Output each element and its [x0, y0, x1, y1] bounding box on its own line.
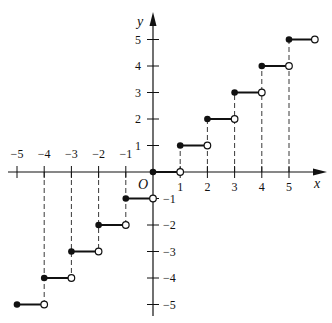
closed-dot-icon	[231, 89, 238, 96]
x-tick-label: 5	[286, 180, 292, 194]
x-tick-label: 2	[204, 180, 210, 194]
open-dot-icon	[312, 36, 319, 43]
open-dot-icon	[150, 195, 157, 202]
closed-dot-icon	[14, 301, 21, 308]
y-axis-arrow-icon	[150, 12, 157, 26]
origin-label: O	[138, 177, 148, 192]
x-tick-label: 4	[259, 180, 265, 194]
open-dot-icon	[286, 63, 293, 70]
y-axis-label: y	[135, 14, 144, 29]
open-dot-icon	[204, 142, 211, 149]
y-tick-label: −4	[163, 271, 176, 285]
y-tick-label: 2	[135, 112, 141, 126]
closed-dot-icon	[41, 275, 48, 282]
y-tick-label: −1	[163, 192, 176, 206]
x-tick-label: 1	[177, 180, 183, 194]
y-tick-label: 3	[135, 86, 141, 100]
open-dot-icon	[41, 301, 48, 308]
closed-dot-icon	[204, 116, 211, 123]
open-dot-icon	[231, 116, 238, 123]
step-function-chart: −5−4−3−2−11234554321−1−2−3−4−5 x y O	[0, 0, 332, 323]
y-tick-label: −5	[163, 298, 176, 312]
open-dot-icon	[177, 169, 184, 176]
x-tick-label: −4	[38, 147, 51, 161]
closed-dot-icon	[95, 222, 102, 229]
closed-dot-icon	[150, 169, 157, 176]
x-tick-label: 3	[232, 180, 238, 194]
closed-dot-icon	[286, 36, 293, 43]
x-tick-label: −5	[11, 147, 24, 161]
x-axis-arrow-icon	[313, 169, 327, 176]
closed-dot-icon	[123, 195, 130, 202]
x-tick-label: −3	[65, 147, 78, 161]
open-dot-icon	[123, 222, 130, 229]
y-tick-label: 1	[135, 139, 141, 153]
y-tick-label: 5	[135, 33, 141, 47]
closed-dot-icon	[177, 142, 184, 149]
y-tick-label: 4	[135, 59, 141, 73]
y-tick-label: −2	[163, 218, 176, 232]
open-dot-icon	[68, 275, 75, 282]
y-tick-label: −3	[163, 245, 176, 259]
open-dot-icon	[95, 248, 102, 255]
open-dot-icon	[259, 89, 266, 96]
x-axis-label: x	[313, 176, 321, 191]
closed-dot-icon	[259, 63, 266, 70]
x-tick-label: −2	[92, 147, 105, 161]
x-tick-label: −1	[119, 147, 132, 161]
closed-dot-icon	[68, 248, 75, 255]
